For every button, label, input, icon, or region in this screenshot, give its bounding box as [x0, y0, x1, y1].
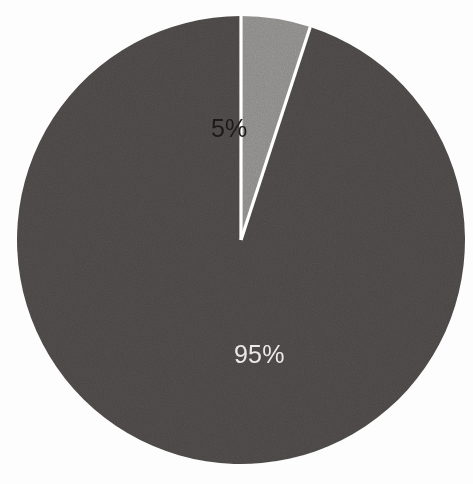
pie-chart-figure: 95% 5%	[0, 0, 473, 484]
pie-chart-canvas	[0, 0, 473, 484]
